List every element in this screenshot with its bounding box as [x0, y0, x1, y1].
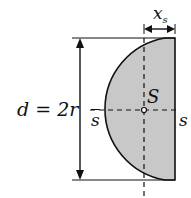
offset-label: xs — [153, 5, 168, 25]
arrow-head-down-icon — [76, 170, 84, 180]
xs-arrow-left-icon — [144, 25, 152, 33]
centroid-label: S — [147, 88, 159, 106]
xs-arrow-right-icon — [167, 25, 175, 33]
centroid-point — [142, 108, 147, 113]
arrow-head-up-icon — [76, 38, 84, 48]
axis-left-label: s — [91, 112, 100, 129]
offset-label-sub: s — [163, 14, 168, 25]
semicircle-shape — [105, 38, 175, 180]
diameter-label: d = 2r — [17, 100, 78, 119]
offset-label-main: x — [153, 3, 163, 23]
axis-right-label: s — [179, 112, 188, 129]
